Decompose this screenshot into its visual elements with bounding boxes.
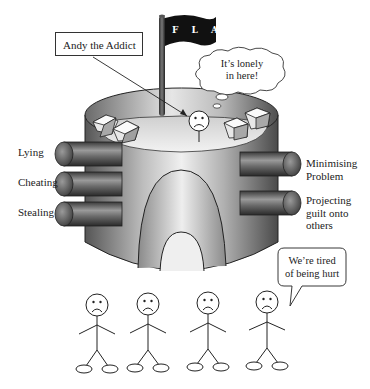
thought-line-2: in here! [214,70,270,82]
speech-line-2: of being hurt [281,268,343,281]
label-stealing: Stealing [18,206,54,219]
label-projecting-line-1: Projecting [306,194,351,207]
label-cheating: Cheating [18,176,58,189]
pipe-minimising [240,152,301,176]
label-minimising-line-2: Problem [306,170,357,183]
flag-label: F L A G [172,25,244,35]
label-projecting: Projecting guilt onto others [306,194,351,232]
speech-line-1: We’re tired [281,255,343,268]
speech-bubble-text: We’re tired of being hurt [281,255,343,280]
label-lying: Lying [18,146,44,159]
pipe-lying [55,142,122,166]
stick-figure [246,291,288,370]
label-projecting-line-3: others [306,219,351,232]
stick-figure [187,292,229,371]
label-minimising: Minimising Problem [306,157,357,182]
stick-figure [127,293,169,372]
pipe-projecting [240,191,301,215]
pipe-stealing [55,202,122,226]
stick-figure [76,294,118,373]
thought-line-1: It’s lonely [214,58,270,70]
addiction-fortress-diagram: F L A G Andy the Addict It’s lonely in h… [0,0,370,389]
addict-label-box: Andy the Addict [55,32,143,56]
label-minimising-line-1: Minimising [306,157,357,170]
label-projecting-line-2: guilt onto [306,207,351,220]
pipe-cheating [55,172,122,196]
thought-bubble-text: It’s lonely in here! [214,58,270,82]
